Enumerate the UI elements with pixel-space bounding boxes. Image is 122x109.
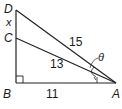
label-BA-length: 11 xyxy=(46,87,59,101)
label-x: x xyxy=(5,16,12,28)
label-DA-length: 15 xyxy=(69,35,83,49)
label-theta: θ xyxy=(98,51,104,63)
triangle-diagram: D x C B A 11 15 13 θ xyxy=(0,0,122,109)
label-CA-length: 13 xyxy=(50,57,64,71)
segment-DA xyxy=(16,10,116,83)
label-C: C xyxy=(4,31,13,45)
right-angle-marker xyxy=(16,76,23,83)
label-B: B xyxy=(3,87,11,101)
label-D: D xyxy=(4,2,13,16)
angle-arrow xyxy=(94,77,96,80)
label-A: A xyxy=(111,87,120,101)
